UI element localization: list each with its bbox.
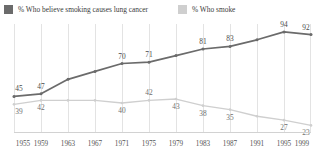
- legend-swatch-believe: [4, 5, 13, 14]
- point-label: 23: [302, 129, 309, 137]
- x-tick-label: 1963: [61, 139, 75, 149]
- point-label: 83: [226, 35, 233, 43]
- x-tick-label: 1959: [34, 139, 48, 149]
- data-point: [310, 33, 313, 36]
- data-point: [148, 61, 151, 64]
- point-label: 43: [172, 103, 179, 111]
- x-tick-label: 1987: [223, 139, 237, 149]
- data-point: [67, 78, 70, 81]
- x-tick-label: 1967: [88, 139, 102, 149]
- x-axis-line: [14, 132, 311, 133]
- x-tick-label: 1971: [115, 139, 129, 149]
- x-tick-label: 1979: [169, 139, 183, 149]
- x-tick-label: 1991: [250, 139, 264, 149]
- plot-area: 4547707181839492394240424338352723: [14, 24, 311, 132]
- data-point: [283, 119, 286, 122]
- data-point: [175, 98, 178, 101]
- data-point: [121, 62, 124, 65]
- legend-item-believe[interactable]: % Who believe smoking causes lung cancer: [4, 5, 148, 14]
- legend-label-smoke: % Who smoke: [192, 5, 235, 14]
- data-point: [310, 124, 313, 127]
- data-point: [148, 99, 151, 102]
- point-label: 38: [199, 110, 206, 118]
- data-point: [94, 70, 97, 73]
- chart-container: % Who believe smoking causes lung cancer…: [0, 0, 325, 161]
- data-point: [94, 99, 97, 102]
- data-point: [229, 108, 232, 111]
- data-point: [256, 38, 259, 41]
- point-label: 39: [15, 108, 22, 116]
- point-label: 70: [118, 53, 125, 61]
- point-label: 45: [15, 85, 22, 93]
- data-point: [229, 45, 232, 48]
- point-label: 81: [199, 38, 206, 46]
- point-label: 27: [280, 124, 287, 132]
- data-point: [283, 30, 286, 33]
- data-point: [13, 95, 16, 98]
- point-label: 40: [118, 107, 125, 115]
- data-point: [13, 103, 16, 106]
- legend-swatch-smoke: [178, 5, 187, 14]
- series-line-smoke: [14, 99, 311, 125]
- chart-legend: % Who believe smoking causes lung cancer…: [0, 4, 325, 18]
- data-point: [40, 99, 43, 102]
- x-axis-ticks: 1955195919631967197119751979198319871991…: [14, 139, 311, 153]
- point-label: 71: [145, 51, 152, 59]
- data-point: [67, 99, 70, 102]
- series-line-believe: [14, 32, 311, 97]
- point-label: 42: [37, 104, 44, 112]
- point-label: 35: [226, 114, 233, 122]
- x-tick-label: 1999: [295, 139, 309, 149]
- data-point: [202, 104, 205, 107]
- x-tick-label: 1955: [16, 139, 30, 149]
- data-point: [256, 115, 259, 118]
- point-label: 42: [145, 89, 152, 97]
- x-tick-label: 1975: [142, 139, 156, 149]
- point-label: 92: [302, 24, 309, 32]
- legend-label-believe: % Who believe smoking causes lung cancer: [18, 5, 148, 14]
- data-point: [121, 102, 124, 105]
- legend-item-smoke[interactable]: % Who smoke: [178, 5, 235, 14]
- point-label: 94: [280, 21, 287, 29]
- point-label: 47: [37, 83, 44, 91]
- data-point: [175, 54, 178, 57]
- x-tick-label: 1983: [196, 139, 210, 149]
- x-tick-label: 1995: [277, 139, 291, 149]
- data-point: [202, 48, 205, 51]
- data-point: [40, 92, 43, 95]
- series-lines: [14, 24, 311, 132]
